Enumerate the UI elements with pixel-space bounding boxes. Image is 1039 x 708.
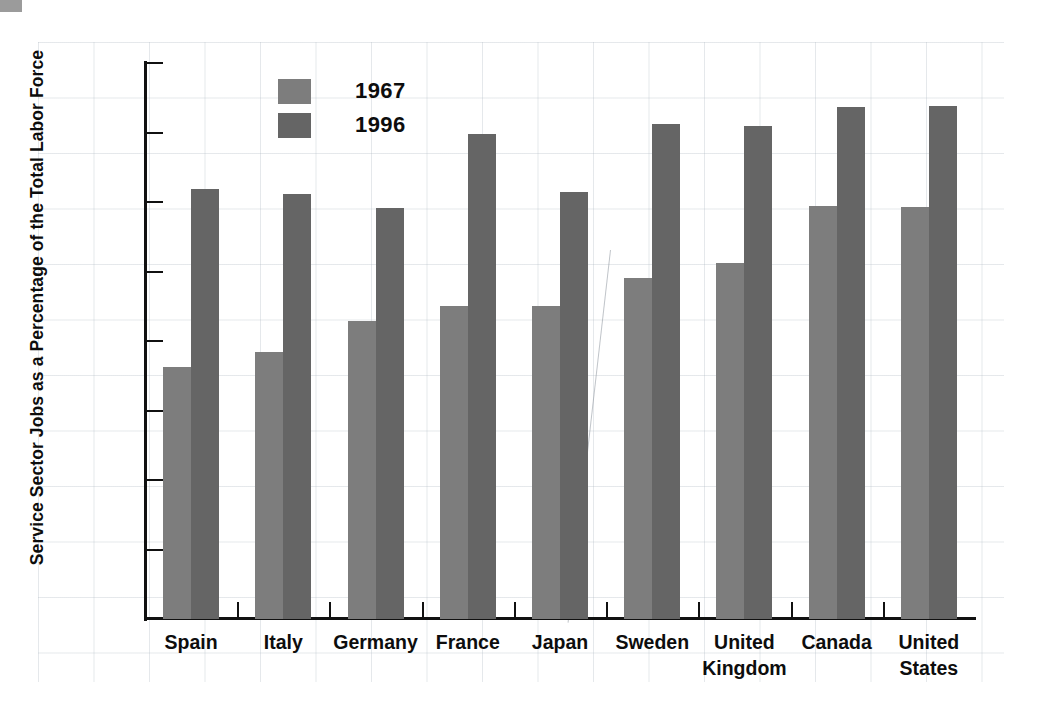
bar-1967-france [440,306,468,619]
chart-page: Service Sector Jobs as a Percentage of t… [0,0,1039,708]
bar-1996-japan [560,192,588,619]
bar-1967-united-kingdom [716,263,744,619]
bar-1967-united-states [901,207,929,619]
bar-1967-germany [348,321,376,619]
bar-1967-spain [163,367,191,619]
legend-item-1967: 1967 [278,74,406,108]
scan-artifact-corner [0,0,22,12]
bar-1996-italy [283,194,311,619]
legend-label-1967: 1967 [355,78,406,104]
y-axis-title: Service Sector Jobs as a Percentage of t… [27,0,48,618]
chart-legend: 1967 1996 [278,74,406,142]
plot-area [145,63,975,619]
legend-swatch-1967 [278,79,311,104]
x-axis-label-united-states: United States [871,629,987,681]
bar-1996-united-states [929,106,957,619]
bar-1996-canada [837,107,865,619]
bar-1967-italy [255,352,283,619]
bar-1996-germany [376,208,404,619]
bar-1967-sweden [624,278,652,619]
bar-1996-sweden [652,124,680,619]
legend-label-1996: 1996 [355,112,406,138]
bar-1967-canada [809,206,837,619]
bar-1967-japan [532,306,560,619]
legend-swatch-1996 [278,113,311,138]
legend-item-1996: 1996 [278,108,406,142]
bar-1996-united-kingdom [744,126,772,619]
bar-1996-spain [191,189,219,619]
bar-1996-france [468,134,496,619]
